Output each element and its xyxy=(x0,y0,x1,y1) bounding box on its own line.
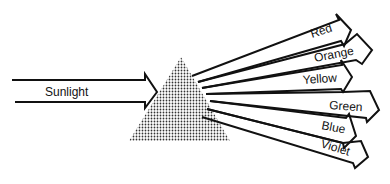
yellow-label: Yellow xyxy=(302,71,337,87)
red-label: Red xyxy=(309,21,334,41)
prism-icon xyxy=(129,57,230,141)
green-ray-arrow: Green xyxy=(206,91,379,122)
prism-dispersion-diagram: Sunlight Red Orange Yellow Green Blue Vi… xyxy=(0,0,390,184)
orange-ray-arrow: Orange xyxy=(198,34,372,88)
green-label: Green xyxy=(329,98,363,114)
blue-label: Blue xyxy=(320,118,347,136)
sunlight-label: Sunlight xyxy=(45,85,89,99)
violet-label: Violet xyxy=(319,136,352,158)
sunlight-arrow: Sunlight xyxy=(12,74,157,108)
